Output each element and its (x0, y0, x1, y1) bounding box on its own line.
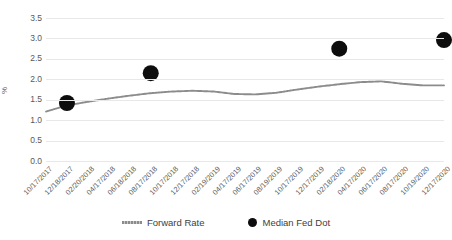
y-axis-tick-label: 1.0 (18, 116, 42, 125)
legend-item-median-fed-dot: Median Fed Dot (248, 217, 330, 228)
forward-rate-chart: % 0.00.51.01.52.02.53.03.5 10/17/201712/… (0, 0, 452, 240)
gridline (46, 18, 444, 19)
y-axis-tick-labels: 0.00.51.01.52.02.53.03.5 (14, 0, 42, 170)
circle-marker-icon (248, 218, 257, 227)
y-axis-tick-label: 3.5 (18, 14, 42, 23)
gridline (46, 141, 444, 142)
median-fed-dot-point (436, 32, 452, 48)
legend-label-median-fed-dot: Median Fed Dot (262, 217, 330, 228)
gridline (46, 120, 444, 121)
y-axis-title: % (0, 87, 9, 94)
y-axis-tick-label: 1.5 (18, 95, 42, 104)
gridline (46, 59, 444, 60)
x-axis-tick-labels: 10/17/201712/18/201702/20/201804/17/2018… (0, 161, 452, 207)
median-fed-dot-point (59, 95, 75, 111)
gridline (46, 100, 444, 101)
plot-area (46, 18, 444, 161)
forward-rate-line (46, 81, 444, 111)
y-axis-tick-label: 3.0 (18, 34, 42, 43)
series-layer (46, 18, 444, 161)
y-axis-tick-label: 0.5 (18, 136, 42, 145)
legend-label-forward-rate: Forward Rate (147, 217, 205, 228)
gridline (46, 38, 444, 39)
chart-legend: Forward Rate Median Fed Dot (0, 212, 452, 232)
y-axis-tick-label: 2.5 (18, 54, 42, 63)
gridline (46, 79, 444, 80)
median-fed-dot-point (331, 41, 347, 57)
legend-item-forward-rate: Forward Rate (122, 217, 205, 228)
line-marker-icon (122, 221, 142, 224)
y-axis-tick-label: 2.0 (18, 75, 42, 84)
